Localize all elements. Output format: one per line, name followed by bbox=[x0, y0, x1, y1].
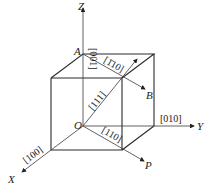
label-o-to-p: [110] bbox=[100, 124, 124, 144]
label-001: [001] bbox=[88, 48, 99, 70]
cube-diagram: Z Y X A O B P [001] [010] [100] [111] [1… bbox=[0, 0, 209, 194]
z-axis-label: Z bbox=[78, 0, 85, 12]
x-axis-label: X bbox=[7, 173, 16, 185]
point-a-label: A bbox=[73, 45, 81, 57]
y-axis-label: Y bbox=[197, 120, 205, 132]
label-010: [010] bbox=[160, 113, 182, 124]
point-p-label: P bbox=[144, 159, 152, 171]
point-o-label: O bbox=[74, 119, 82, 131]
axes bbox=[22, 8, 194, 172]
label-100: [100] bbox=[21, 144, 45, 166]
label-111: [111] bbox=[86, 89, 108, 112]
point-b-label: B bbox=[146, 89, 153, 101]
